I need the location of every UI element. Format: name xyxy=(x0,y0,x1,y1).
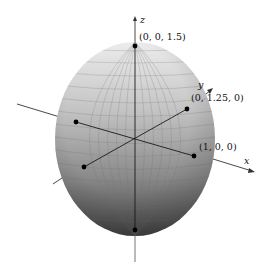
point-z-top xyxy=(133,44,138,49)
x-axis-label: x xyxy=(244,155,250,166)
point-x-neg xyxy=(74,120,79,125)
point-z-bottom xyxy=(133,228,138,233)
ellipsoid-diagram: z y x (0, 0, 1.5) (0, 1.25, 0) (1, 0, 0) xyxy=(0,0,267,275)
point-label-y-pos: (0, 1.25, 0) xyxy=(191,92,244,103)
point-x-pos xyxy=(192,154,197,159)
point-y-neg xyxy=(82,165,87,170)
y-axis-label: y xyxy=(197,79,204,90)
point-label-z-top: (0, 0, 1.5) xyxy=(139,31,186,42)
z-axis-arrow-icon xyxy=(133,16,137,21)
z-axis-label: z xyxy=(139,14,146,25)
y-axis-neg-line xyxy=(53,178,62,184)
point-y-pos xyxy=(185,107,190,112)
x-axis-neg-line xyxy=(17,104,60,117)
point-label-x-pos: (1, 0, 0) xyxy=(199,141,237,152)
x-axis-arrow-icon xyxy=(248,168,255,173)
